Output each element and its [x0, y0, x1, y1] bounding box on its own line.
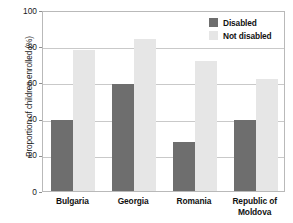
x-tick-label-bulgaria: Bulgaria	[42, 196, 103, 207]
legend-label-disabled: Disabled	[223, 18, 257, 28]
x-tick-label-line: Republic of	[224, 196, 285, 207]
bar-georgia-disabled	[112, 84, 134, 191]
x-tick-label-republic-of-moldova: Republic ofMoldova	[224, 196, 285, 217]
legend-item-disabled: Disabled	[209, 16, 277, 29]
bar-georgia-not-disabled	[134, 39, 156, 191]
y-tick-label: 20	[6, 151, 37, 160]
x-tick-label-line: Romania	[164, 196, 225, 207]
legend-item-not-disabled: Not disabled	[209, 29, 277, 42]
x-tick-label-romania: Romania	[164, 196, 225, 207]
legend-swatch-not-disabled	[209, 31, 218, 40]
y-tick-label: 80	[6, 43, 37, 52]
bar-chart-figure: Proportion of children enrolled (%) 0204…	[0, 0, 293, 223]
x-tick-label-line: Moldova	[224, 207, 285, 218]
legend-swatch-disabled	[209, 18, 218, 27]
bar-republic-of-moldova-not-disabled	[256, 79, 278, 191]
y-tick-label: 60	[6, 79, 37, 88]
legend-label-not-disabled: Not disabled	[223, 31, 272, 41]
chart-legend: Disabled Not disabled	[205, 13, 281, 46]
x-tick-label-georgia: Georgia	[103, 196, 164, 207]
bar-romania-disabled	[173, 142, 195, 191]
x-tick-label-line: Bulgaria	[42, 196, 103, 207]
bar-romania-not-disabled	[195, 61, 217, 191]
x-tick-label-line: Georgia	[103, 196, 164, 207]
bar-bulgaria-disabled	[51, 120, 73, 191]
bar-bulgaria-not-disabled	[73, 50, 95, 191]
y-tick-mark	[39, 192, 42, 193]
bar-republic-of-moldova-disabled	[234, 120, 256, 191]
y-tick-label: 40	[6, 115, 37, 124]
y-tick-label: 0	[6, 188, 37, 197]
y-tick-label: 100	[6, 7, 37, 16]
